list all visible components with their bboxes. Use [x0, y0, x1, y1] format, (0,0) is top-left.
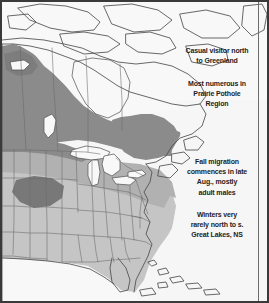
annotation-line: Region: [179, 99, 254, 109]
annotation-most-numerous-prairie: Most numerous in Prairie Pothole Region: [179, 79, 254, 110]
annotation-line: Prairie Pothole: [179, 89, 254, 99]
annotation-line: commences in late: [179, 167, 254, 177]
annotation-line: to Greenland: [179, 56, 254, 66]
annotation-fall-migration: Fall migration commences in late Aug., m…: [179, 157, 254, 198]
annotation-layer: Casual visitor north to Greenland Most n…: [176, 0, 258, 303]
annotation-column-divider: [258, 2, 259, 301]
annotation-casual-visitor-greenland: Casual visitor north to Greenland: [179, 46, 254, 66]
annotation-line: adult males: [179, 188, 254, 198]
annotation-line: Great Lakes, NS: [179, 230, 254, 240]
annotation-line: Winters very: [179, 210, 254, 220]
annotation-line: Fall migration: [179, 157, 254, 167]
annotation-line: Most numerous in: [179, 79, 254, 89]
range-map-figure: Casual visitor north to Greenland Most n…: [0, 0, 269, 303]
annotation-line: Casual visitor north: [179, 46, 254, 56]
annotation-line: rarely north to s.: [179, 220, 254, 230]
annotation-winters-rarely-north: Winters very rarely north to s. Great La…: [179, 210, 254, 241]
annotation-line: Aug., mostly: [179, 177, 254, 187]
